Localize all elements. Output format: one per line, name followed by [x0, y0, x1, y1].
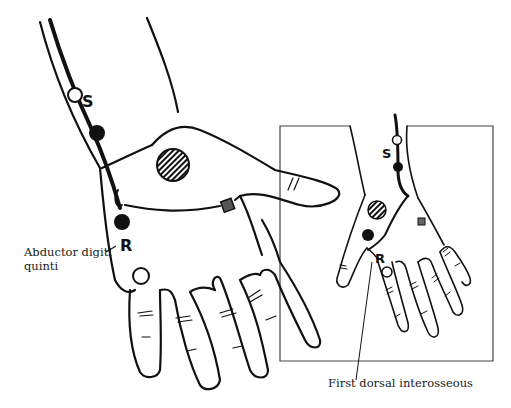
stim-cathode-circle — [89, 125, 105, 141]
recording-reference-circle — [133, 268, 149, 284]
main-hand — [40, 18, 339, 389]
stim-anode-circle — [68, 88, 82, 102]
inset-recording-reference-circle — [382, 267, 392, 277]
inset-ground-electrode-hatched — [368, 201, 386, 219]
ground-electrode-hatched — [157, 149, 189, 181]
diagram-canvas: S R S R Abductor digiti quinti First dor… — [0, 0, 511, 408]
first-dorsal-interosseous-label: First dorsal interosseous — [328, 376, 473, 390]
inset-stim-cathode-circle — [393, 162, 403, 172]
inset-record-label: R — [375, 251, 385, 266]
inset-stim-anode-circle — [393, 136, 402, 145]
abductor-digiti-quinti-label: Abductor digiti quinti — [24, 245, 112, 273]
recording-active-circle — [114, 214, 130, 230]
inset-nerve — [368, 115, 408, 250]
inset-frame — [280, 126, 493, 361]
inset-stim-label: S — [382, 146, 391, 161]
main-stim-label: S — [82, 92, 94, 111]
connector-block — [221, 198, 235, 212]
inset-hand — [337, 126, 470, 337]
interosseous-leader-line — [356, 262, 372, 380]
inset-connector-block — [418, 218, 425, 225]
abductor-label-line1: Abductor digiti — [24, 245, 112, 259]
hand-illustration — [0, 0, 511, 408]
inset-recording-active-circle — [362, 229, 374, 241]
main-nerve — [50, 20, 240, 211]
main-record-label: R — [120, 236, 132, 255]
abductor-label-line2: quinti — [24, 259, 112, 273]
